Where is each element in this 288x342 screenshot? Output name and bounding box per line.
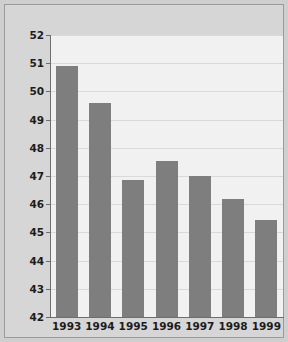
bar — [56, 66, 78, 317]
figure-inner: % EU budget 4243444546474849505152 19931… — [11, 11, 277, 331]
gridline — [51, 63, 283, 64]
bar — [255, 220, 277, 317]
y-axis-tick-label: 47 — [29, 171, 44, 182]
bar — [189, 176, 211, 317]
y-axis-tick-label: 42 — [29, 312, 44, 323]
bar — [156, 161, 178, 318]
y-axis-tick-label: 43 — [29, 284, 44, 295]
x-axis-tick-label: 1997 — [185, 321, 214, 332]
bar — [89, 103, 111, 317]
gridline — [51, 148, 283, 149]
y-axis-tick-label: 50 — [29, 86, 44, 97]
y-axis-tick-label: 44 — [29, 255, 44, 266]
x-axis-tick-label: 1994 — [85, 321, 114, 332]
x-axis-tick-label: 1996 — [152, 321, 181, 332]
x-axis-tick-label: 1995 — [119, 321, 148, 332]
x-axis-tick-label: 1993 — [52, 321, 81, 332]
y-axis-tick-label: 45 — [29, 227, 44, 238]
bar — [222, 199, 244, 317]
bar — [122, 180, 144, 317]
chart-plot-area: 4243444546474849505152 19931994199519961… — [50, 35, 283, 317]
gridline — [51, 120, 283, 121]
x-axis-line — [50, 317, 284, 318]
y-axis-tick-label: 52 — [29, 30, 44, 41]
gridline — [51, 35, 283, 36]
y-axis-tick-label: 51 — [29, 58, 44, 69]
figure-frame: % EU budget 4243444546474849505152 19931… — [4, 4, 284, 338]
y-axis-tick-label: 46 — [29, 199, 44, 210]
gridline — [51, 91, 283, 92]
y-axis-tick-label: 48 — [29, 143, 44, 154]
y-axis-line — [50, 35, 51, 318]
chart-screenshot: % EU budget 4243444546474849505152 19931… — [0, 0, 288, 342]
x-axis-tick-label: 1999 — [252, 321, 281, 332]
y-axis-tick-label: 49 — [29, 114, 44, 125]
x-axis-tick-label: 1998 — [218, 321, 247, 332]
